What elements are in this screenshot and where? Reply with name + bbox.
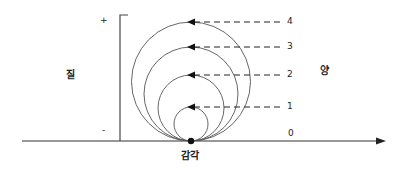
level-label-1: 1 <box>287 102 293 111</box>
vertical-bracket <box>120 15 128 141</box>
level-label-2: 2 <box>287 70 293 79</box>
sensation-label: 감각 <box>181 151 199 161</box>
level-label-0: 0 <box>288 129 294 138</box>
circle-level-1 <box>174 107 208 141</box>
quality-label: 질 <box>66 70 75 80</box>
arrow-left-icon <box>187 44 195 51</box>
concentric-circles <box>132 22 251 141</box>
quantity-label: 양 <box>320 66 329 76</box>
dashed-level-lines <box>194 22 284 107</box>
minus-label: - <box>102 126 105 135</box>
axis-arrow-icon <box>376 138 386 145</box>
circle-level-3 <box>144 47 238 141</box>
level-label-3: 3 <box>287 42 293 51</box>
sensation-diagram <box>0 0 406 178</box>
level-label-4: 4 <box>287 17 293 26</box>
circle-level-4 <box>132 22 251 141</box>
arrow-left-icon <box>187 19 195 26</box>
arrow-left-icon <box>187 104 195 111</box>
arrowheads <box>187 19 195 111</box>
plus-label: + <box>100 16 108 25</box>
origin-dot <box>188 138 194 144</box>
arrow-left-icon <box>187 72 195 79</box>
